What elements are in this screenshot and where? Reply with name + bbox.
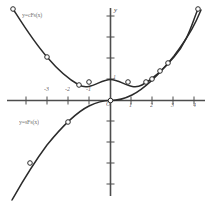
x-tick-label-2: 2 (150, 102, 153, 108)
y-axis-label: y (114, 6, 117, 14)
x-tick-label-1: 1 (129, 102, 132, 108)
cosh-curve-annotation: y=cFs(x) (22, 12, 42, 18)
data-point-marker (77, 83, 82, 88)
data-point-marker (158, 69, 163, 74)
data-point-marker (150, 77, 155, 82)
data-point-marker (87, 80, 92, 85)
y-tick-label-1: 1 (113, 74, 116, 80)
x-tick-label-3: 3 (171, 102, 174, 108)
data-point-marker (196, 7, 201, 12)
data-point-marker (66, 120, 71, 125)
sinh-curve-annotation: y=sFs(x) (19, 119, 39, 125)
data-point-marker (126, 80, 131, 85)
cosh-curve (13, 9, 198, 87)
x-tick-label-4: 4 (193, 102, 196, 108)
data-point-marker (11, 7, 16, 12)
data-point-marker (144, 80, 149, 85)
data-point-marker (28, 161, 33, 166)
data-point-marker (166, 61, 171, 66)
x-tick-label-minus2: -2 (65, 86, 70, 92)
origin-label: O (106, 101, 110, 107)
x-tick-label-minus3: -3 (44, 86, 49, 92)
x-tick-label-minus1: -1 (86, 86, 91, 92)
data-point-marker (45, 55, 50, 60)
